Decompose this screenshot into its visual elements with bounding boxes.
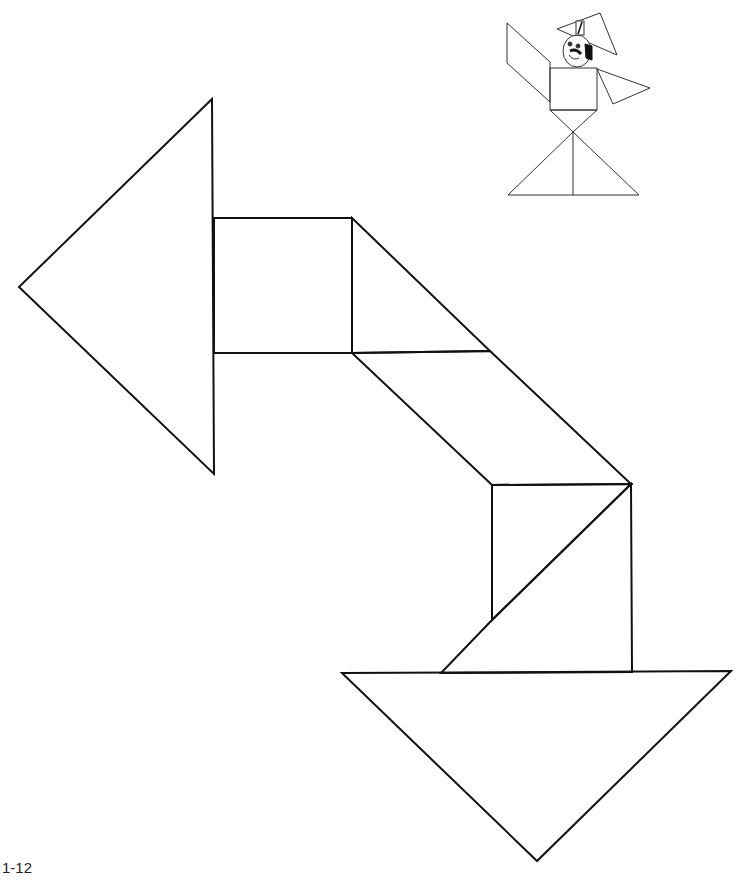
body-square bbox=[550, 68, 597, 110]
large-triangle-left bbox=[19, 99, 214, 474]
square-top bbox=[214, 218, 352, 353]
small-triangle-top bbox=[352, 218, 490, 353]
hair bbox=[585, 44, 592, 60]
large-triangle-bottom bbox=[342, 671, 731, 861]
waist-triangle bbox=[550, 110, 597, 132]
right-arm bbox=[597, 69, 650, 104]
right-eye bbox=[576, 44, 580, 48]
tangram-person-figure bbox=[507, 13, 650, 195]
tangram-arrow bbox=[19, 99, 731, 861]
parallelogram-middle bbox=[352, 351, 631, 485]
left-arm bbox=[507, 23, 550, 102]
page-number-label: 1-12 bbox=[2, 859, 32, 876]
left-eye bbox=[568, 42, 572, 46]
tangram-canvas bbox=[0, 0, 744, 880]
parallelogram-lower bbox=[441, 484, 632, 673]
